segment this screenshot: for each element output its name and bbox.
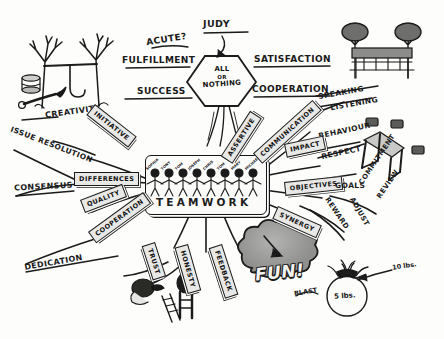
illustration-trees-right [342,23,421,78]
main-trunk [207,106,241,146]
weight-5lbs-label: 5 lbs. [334,291,356,300]
illustration-figures-bottom [131,273,195,322]
hexagon-line-1: ALL [202,66,242,74]
teamwork-word: TEAMWORK [156,196,251,208]
left-branches-lines [14,141,152,264]
illustration-barrel [22,75,40,93]
illustration-structure [362,118,424,180]
mindmap-canvas: ACUTE? JUDY FULFILLMENT SATISFACTION SUC… [0,0,444,339]
